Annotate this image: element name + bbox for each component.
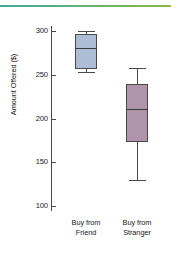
y-tick-250: [51, 75, 56, 76]
top-rule-decoration: [0, 5, 171, 7]
whisker-cap-upper-1: [129, 68, 146, 69]
y-tick-100: [51, 206, 56, 207]
whisker-lower-1: [137, 142, 138, 180]
y-tick-label-100: 100: [36, 201, 48, 210]
y-tick-label-150: 150: [36, 157, 48, 166]
y-tick-label-250: 250: [36, 70, 48, 79]
median-line-1: [126, 109, 148, 110]
category-label-1: Buy fromStranger: [102, 218, 171, 237]
y-tick-300: [51, 31, 56, 32]
y-axis-title: Amount Offered ($): [9, 25, 18, 145]
whisker-cap-lower-0: [78, 72, 95, 73]
y-tick-200: [51, 119, 56, 120]
y-tick-label-300: 300: [36, 26, 48, 35]
whisker-cap-upper-0: [78, 31, 95, 32]
box-0: [75, 34, 97, 69]
boxplot-figure: Amount Offered ($) 100150200250300 Buy f…: [0, 0, 171, 253]
y-tick-150: [51, 162, 56, 163]
whisker-upper-1: [137, 68, 138, 84]
box-1: [126, 84, 148, 143]
whisker-cap-lower-1: [129, 180, 146, 181]
median-line-0: [75, 48, 97, 49]
y-tick-label-200: 200: [36, 114, 48, 123]
